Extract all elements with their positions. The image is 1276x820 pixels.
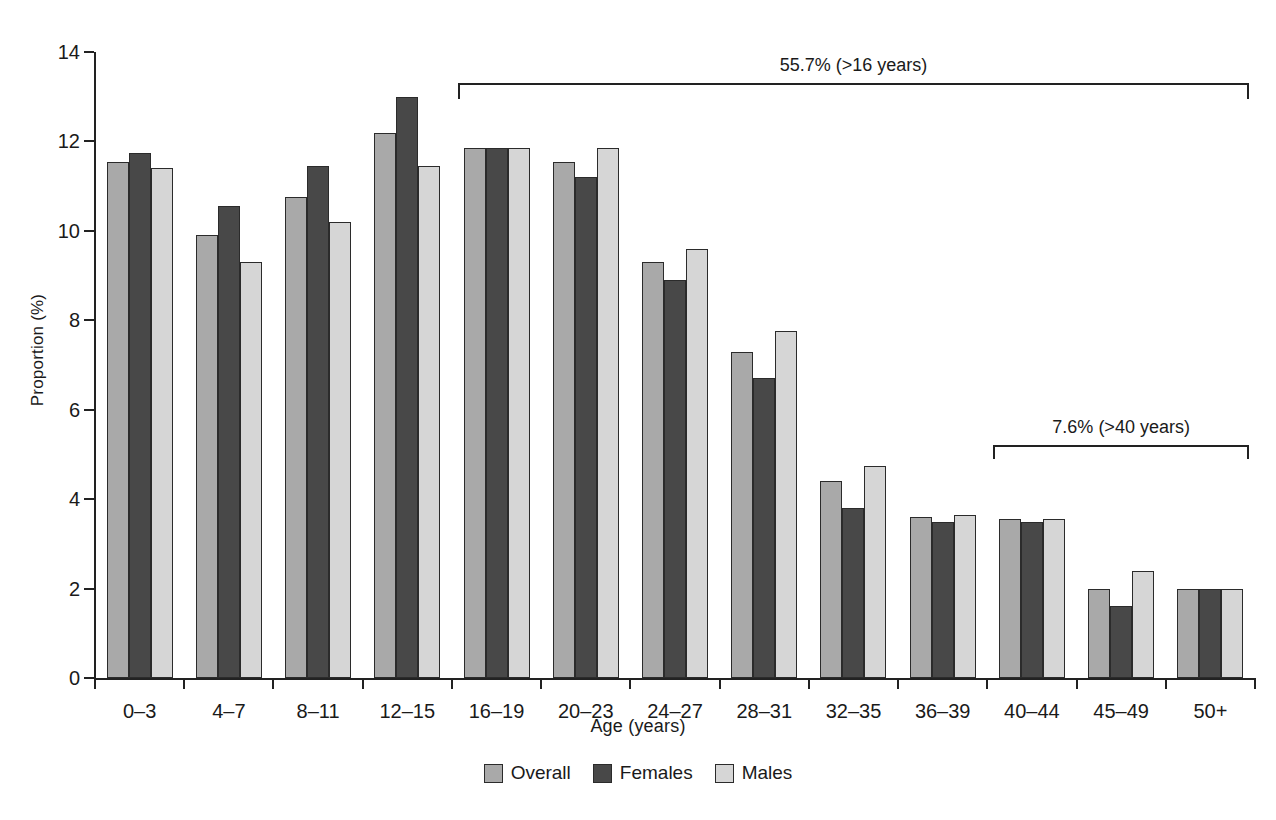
x-axis-tick (362, 678, 364, 689)
x-axis-tick (1165, 678, 1167, 689)
bar-males-10 (1043, 519, 1065, 678)
bar-overall-12 (1177, 589, 1199, 678)
bar-overall-2 (285, 197, 307, 678)
chart-legend: OverallFemalesMales (0, 762, 1276, 784)
annotation-label-1: 7.6% (>40 years) (1052, 417, 1190, 438)
x-axis-tick (1254, 678, 1256, 689)
bar-females-4 (486, 148, 508, 678)
legend-item-label: Overall (511, 762, 571, 784)
bar-overall-8 (820, 481, 842, 678)
x-axis-tick (719, 678, 721, 689)
bar-overall-7 (731, 352, 753, 678)
y-axis-line (94, 52, 96, 679)
bar-females-7 (753, 378, 775, 678)
y-axis-tick (84, 51, 94, 53)
x-axis-category-label: 50+ (1193, 700, 1227, 723)
y-axis-tick-label: 2 (20, 579, 80, 599)
bar-males-11 (1132, 571, 1154, 678)
x-axis-category-label: 36–39 (915, 700, 971, 723)
bar-females-5 (575, 177, 597, 678)
bar-males-8 (864, 466, 886, 678)
bar-females-6 (664, 280, 686, 678)
bar-males-7 (775, 331, 797, 678)
bar-males-2 (329, 222, 351, 678)
x-axis-category-label: 4–7 (212, 700, 245, 723)
bar-males-1 (240, 262, 262, 678)
y-axis-tick-label: 4 (20, 489, 80, 509)
x-axis-tick (629, 678, 631, 689)
x-axis-category-label: 12–15 (379, 700, 435, 723)
bar-males-3 (418, 166, 440, 678)
y-axis-tick (84, 588, 94, 590)
x-axis-tick (808, 678, 810, 689)
y-axis-tick (84, 498, 94, 500)
x-axis-category-label: 24–27 (647, 700, 703, 723)
bar-females-9 (932, 522, 954, 679)
annotation-label-0: 55.7% (>16 years) (780, 55, 928, 76)
bar-chart-figure: Proportion (%) Age (years) 02468101214 0… (0, 0, 1276, 820)
bar-overall-3 (374, 133, 396, 679)
y-axis-tick (84, 409, 94, 411)
annotation-bracket-1 (993, 445, 1249, 458)
bar-overall-1 (196, 235, 218, 678)
bar-males-5 (597, 148, 619, 678)
x-axis-tick (986, 678, 988, 689)
legend-item-label: Females (620, 762, 693, 784)
plot-area: 02468101214 0–34–78–1112–1516–1920–2324–… (95, 52, 1255, 678)
bar-females-12 (1199, 589, 1221, 678)
bar-overall-9 (910, 517, 932, 678)
legend-item-males[interactable]: Males (715, 762, 793, 784)
x-axis-category-label: 8–11 (297, 700, 340, 723)
x-axis-tick (540, 678, 542, 689)
x-axis-category-label: 0–3 (123, 700, 156, 723)
y-axis-tick-label: 12 (20, 131, 80, 151)
y-axis-tick (84, 230, 94, 232)
bar-overall-0 (107, 162, 129, 678)
y-axis-tick (84, 140, 94, 142)
bar-males-9 (954, 515, 976, 678)
y-axis-tick-label: 14 (20, 42, 80, 62)
bar-females-8 (842, 508, 864, 678)
y-axis-tick (84, 319, 94, 321)
bar-overall-4 (464, 148, 486, 678)
y-axis-tick-label: 8 (20, 310, 80, 330)
y-axis-tick-label: 0 (20, 668, 80, 688)
x-axis-category-label: 40–44 (1004, 700, 1060, 723)
x-axis-tick (451, 678, 453, 689)
bar-overall-5 (553, 162, 575, 678)
x-axis-category-label: 32–35 (826, 700, 882, 723)
y-axis-label: Proportion (%) (28, 250, 48, 450)
annotation-bracket-0 (458, 83, 1249, 99)
bar-females-10 (1021, 522, 1043, 679)
x-axis-tick (94, 678, 96, 689)
legend-item-females[interactable]: Females (593, 762, 693, 784)
bar-females-2 (307, 166, 329, 678)
bar-females-11 (1110, 606, 1132, 678)
bar-males-4 (508, 148, 530, 678)
bar-females-0 (129, 153, 151, 678)
bar-overall-11 (1088, 589, 1110, 678)
y-axis-tick (84, 677, 94, 679)
x-axis-label: Age (years) (0, 716, 1276, 737)
legend-item-overall[interactable]: Overall (484, 762, 571, 784)
legend-item-label: Males (742, 762, 793, 784)
bar-males-0 (151, 168, 173, 678)
x-axis-tick (183, 678, 185, 689)
legend-swatch-icon (593, 764, 612, 783)
bar-overall-6 (642, 262, 664, 678)
bar-males-12 (1221, 589, 1243, 678)
x-axis-tick (1076, 678, 1078, 689)
x-axis-category-label: 16–19 (469, 700, 525, 723)
legend-swatch-icon (715, 764, 734, 783)
bar-overall-10 (999, 519, 1021, 678)
y-axis-tick-label: 10 (20, 221, 80, 241)
legend-swatch-icon (484, 764, 503, 783)
bar-males-6 (686, 249, 708, 678)
x-axis-tick (897, 678, 899, 689)
x-axis-category-label: 28–31 (736, 700, 792, 723)
x-axis-tick (272, 678, 274, 689)
x-axis-line (94, 678, 1255, 680)
bar-females-1 (218, 206, 240, 678)
x-axis-category-label: 20–23 (558, 700, 614, 723)
x-axis-category-label: 45–49 (1093, 700, 1149, 723)
